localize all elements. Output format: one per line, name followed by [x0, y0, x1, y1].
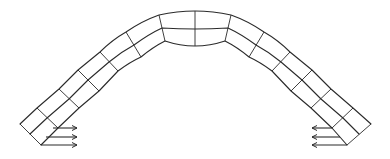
left-support-arrows	[41, 128, 77, 145]
arch-outer-curve	[20, 11, 371, 124]
radial-divisions-right	[225, 15, 371, 145]
right-support-arrows	[312, 128, 347, 145]
arch-mesh-svg	[0, 0, 390, 159]
arch-diagram	[0, 0, 390, 159]
arch-inner-curve	[41, 41, 347, 145]
radial-divisions-left	[20, 15, 165, 145]
arch-middle-curve	[30, 28, 359, 134]
